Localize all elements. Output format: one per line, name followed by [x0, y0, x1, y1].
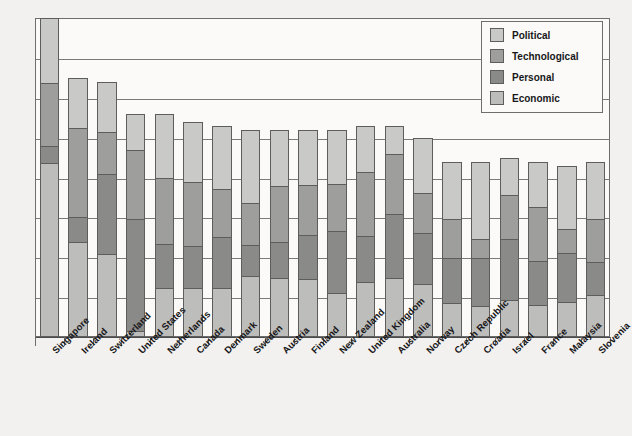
stacked-bar[interactable]	[528, 162, 548, 337]
legend-item[interactable]: Technological	[490, 49, 595, 63]
bar-slot	[380, 18, 409, 337]
bar-segment-personal	[298, 235, 318, 279]
bar-segment-economic	[97, 254, 117, 337]
stacked-bar[interactable]	[298, 130, 318, 337]
bar-segment-technological	[241, 203, 261, 245]
bar-segment-technological	[356, 172, 376, 237]
bar-segment-personal	[528, 261, 548, 305]
stacked-bar[interactable]	[241, 130, 261, 337]
bar-segment-political	[155, 114, 175, 179]
bar-slot	[438, 18, 467, 337]
legend-label: Economic	[512, 93, 560, 104]
stacked-bar[interactable]	[40, 18, 60, 337]
bar-segment-political	[385, 126, 405, 155]
bar-segment-political	[183, 122, 203, 182]
bar-segment-political	[500, 158, 520, 196]
stacked-bar[interactable]	[270, 130, 290, 337]
bar-slot	[64, 18, 93, 337]
stacked-bar[interactable]	[68, 78, 88, 337]
bar-slot	[265, 18, 294, 337]
stacked-bar[interactable]	[557, 166, 577, 337]
legend-label: Personal	[512, 72, 554, 83]
bar-segment-personal	[241, 245, 261, 277]
bar-segment-technological	[97, 132, 117, 174]
bar-segment-personal	[68, 217, 88, 242]
x-axis-labels: SingaporeIrelandSwitzerlandUnited States…	[35, 348, 610, 436]
bar-slot	[409, 18, 438, 337]
legend-label: Technological	[512, 51, 579, 62]
legend-swatch-icon	[490, 70, 504, 84]
bar-segment-personal	[442, 258, 462, 303]
bar-segment-political	[442, 162, 462, 220]
stacked-bar[interactable]	[586, 162, 606, 337]
legend-item[interactable]: Economic	[490, 91, 595, 105]
bar-segment-technological	[298, 185, 318, 235]
stacked-bar[interactable]	[155, 114, 175, 337]
bar-segment-personal	[183, 246, 203, 288]
bar-segment-technological	[471, 239, 491, 258]
bar-segment-technological	[40, 83, 60, 147]
bar-segment-personal	[327, 231, 347, 293]
bar-segment-political	[557, 166, 577, 230]
bar-slot	[179, 18, 208, 337]
bar-segment-personal	[413, 233, 433, 285]
bar-slot	[93, 18, 122, 337]
bar-segment-personal	[40, 146, 60, 163]
bar-segment-technological	[528, 207, 548, 261]
bar-segment-personal	[557, 253, 577, 302]
bar-segment-technological	[385, 154, 405, 214]
stacked-bar[interactable]	[183, 122, 203, 337]
bar-segment-political	[356, 126, 376, 172]
bar-slot	[150, 18, 179, 337]
bar-segment-technological	[442, 219, 462, 258]
bar-segment-political	[126, 114, 146, 150]
bar-segment-personal	[586, 262, 606, 295]
bar-slot	[351, 18, 380, 337]
legend-item[interactable]: Political	[490, 28, 595, 42]
bar-slot	[294, 18, 323, 337]
bar-segment-technological	[68, 128, 88, 217]
legend-item[interactable]: Personal	[490, 70, 595, 84]
bar-segment-technological	[557, 229, 577, 253]
bar-slot	[208, 18, 237, 337]
bar-slot	[323, 18, 352, 337]
bar-segment-political	[586, 162, 606, 220]
chart-legend: PoliticalTechnologicalPersonalEconomic	[481, 21, 603, 113]
stacked-bar[interactable]	[327, 130, 347, 337]
stacked-bar[interactable]	[442, 162, 462, 337]
bar-segment-political	[241, 130, 261, 203]
bar-segment-economic	[40, 163, 60, 337]
bar-segment-technological	[586, 219, 606, 262]
bar-segment-political	[298, 130, 318, 186]
bar-segment-technological	[270, 186, 290, 243]
bar-segment-political	[528, 162, 548, 208]
bar-segment-personal	[97, 174, 117, 255]
bar-segment-political	[212, 126, 232, 189]
stacked-bar[interactable]	[385, 126, 405, 337]
axis-tick	[35, 337, 36, 346]
stacked-bar[interactable]	[356, 126, 376, 337]
bar-segment-political	[97, 82, 117, 132]
stacked-bar[interactable]	[97, 82, 117, 337]
bar-segment-personal	[500, 239, 520, 300]
bar-segment-technological	[500, 195, 520, 238]
bar-segment-political	[413, 138, 433, 194]
bar-segment-personal	[356, 236, 376, 282]
bar-segment-technological	[327, 184, 347, 232]
bar-segment-technological	[183, 182, 203, 247]
stacked-bar[interactable]	[126, 114, 146, 337]
bar-segment-technological	[212, 189, 232, 237]
bar-segment-technological	[155, 178, 175, 244]
legend-swatch-icon	[490, 49, 504, 63]
bar-segment-technological	[413, 193, 433, 232]
stacked-bar[interactable]	[212, 126, 232, 337]
bar-segment-economic	[528, 305, 548, 337]
bar-slot	[236, 18, 265, 337]
bar-segment-personal	[212, 237, 232, 289]
bar-segment-political	[270, 130, 290, 186]
bar-segment-political	[40, 18, 60, 83]
legend-swatch-icon	[490, 91, 504, 105]
bar-segment-political	[68, 78, 88, 129]
legend-label: Political	[512, 30, 550, 41]
